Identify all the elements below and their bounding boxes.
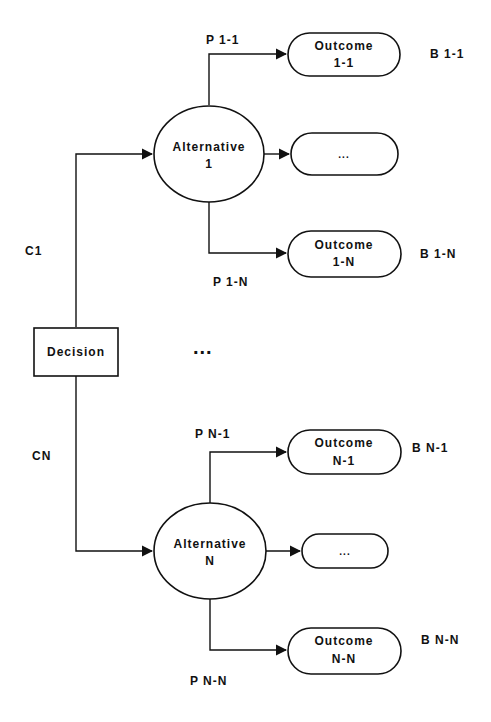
outcome-n-1-line2: N-1: [333, 454, 355, 468]
alternative-n-node: Alternative N: [154, 503, 266, 599]
middle-ellipsis: ...: [193, 336, 213, 358]
benefit-label-n-n: B N-N: [421, 633, 459, 647]
outcome-n-n-node: Outcome N-N: [288, 628, 401, 674]
edge-alt-n-to-outcome-n-n: [210, 598, 286, 650]
outcome-n-mid-label: ...: [339, 546, 350, 557]
outcome-1-n-line1: Outcome: [314, 238, 373, 252]
outcome-1-1-node: Outcome 1-1: [288, 33, 400, 76]
outcome-1-mid-label: ...: [338, 149, 349, 160]
outcome-1-1-line2: 1-1: [334, 56, 354, 70]
alternative-1-node: Alternative 1: [154, 106, 264, 202]
decision-label: Decision: [47, 345, 105, 359]
benefit-label-n-1: B N-1: [412, 441, 448, 455]
decision-tree-diagram: Decision C1 CN ... Alternative 1 Alterna…: [0, 0, 491, 722]
benefit-label-1-1: B 1-1: [430, 47, 464, 61]
prob-label-n-n: P N-N: [190, 674, 227, 688]
benefit-label-1-n: B 1-N: [420, 247, 456, 261]
outcome-n-n-line2: N-N: [332, 652, 356, 666]
edge-alt-n-to-outcome-n-1: [210, 452, 286, 503]
edge-decision-to-alt-n: [76, 376, 152, 551]
outcome-n-1-line1: Outcome: [314, 436, 373, 450]
alternative-1-label-line2: 1: [205, 157, 213, 171]
outcome-1-1-line1: Outcome: [314, 39, 373, 53]
outcome-1-n-node: Outcome 1-N: [288, 231, 401, 277]
outcome-1-n-line2: 1-N: [333, 255, 355, 269]
prob-label-1-1: P 1-1: [206, 33, 239, 47]
outcome-n-1-node: Outcome N-1: [288, 430, 401, 474]
cost-label-c1: C1: [25, 244, 42, 258]
alternative-1-label-line1: Alternative: [172, 140, 245, 154]
outcome-n-n-line1: Outcome: [314, 634, 373, 648]
prob-label-1-n: P 1-N: [213, 275, 248, 289]
alternative-n-label-line2: N: [205, 554, 215, 568]
alternative-n-label-line1: Alternative: [173, 537, 246, 551]
outcome-n-mid-node: ...: [302, 534, 388, 568]
edge-alt-1-to-outcome-1-n: [209, 202, 286, 253]
edge-decision-to-alt-1: [76, 154, 152, 327]
decision-node: Decision: [34, 328, 118, 376]
cost-label-cn: CN: [32, 449, 51, 463]
prob-label-n-1: P N-1: [195, 427, 230, 441]
outcome-1-mid-node: ...: [291, 133, 398, 175]
edge-alt-1-to-outcome-1-1: [209, 54, 286, 105]
